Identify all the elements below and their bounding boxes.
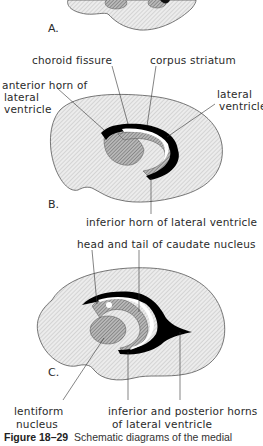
figure-number: Figure 18–29: [4, 431, 68, 443]
label-anterior-horn-line3: ventricle: [4, 103, 52, 115]
label-lateral-ventricle-line2: ventricle: [219, 100, 263, 112]
label-anterior-horn-line1: anterior horn of: [2, 79, 88, 91]
label-horns-line2: of lateral ventricle: [112, 418, 212, 430]
panel-a-hemisphere: [68, 0, 196, 30]
label-lentiform-line1: lentiform: [14, 405, 63, 417]
label-choroid-fissure: choroid fissure: [32, 54, 112, 66]
label-caudate-nucleus: head and tail of caudate nucleus: [77, 238, 256, 250]
panel-a-letter: A.: [48, 22, 59, 35]
label-lentiform-line2: nucleus: [16, 418, 58, 430]
panel-b-letter: B.: [48, 198, 59, 211]
label-inferior-horn: inferior horn of lateral ventricle: [86, 216, 257, 228]
label-anterior-horn-line2: lateral: [4, 91, 39, 103]
panel-c-letter: C.: [48, 366, 59, 379]
panel-b-hemisphere: [50, 94, 222, 202]
label-corpus-striatum: corpus striatum: [150, 54, 236, 66]
label-horns-line1: inferior and posterior horns: [108, 405, 258, 417]
figure-caption: Figure 18–29 Schematic diagrams of the m…: [4, 431, 232, 443]
panel-c-hemisphere: [37, 268, 224, 380]
label-lateral-ventricle-line1: lateral: [217, 88, 252, 100]
figure-caption-text: Schematic diagrams of the medial: [74, 431, 232, 443]
